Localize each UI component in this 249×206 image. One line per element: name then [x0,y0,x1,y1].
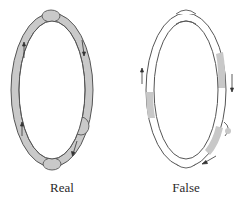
label-false: False [124,180,248,196]
panel-false: False [124,0,248,206]
false-ring-diagram [124,0,248,206]
panel-real: Real [0,0,124,206]
false-ring-inner-icon [154,21,218,159]
ring-comparison-figure: Real False [0,0,249,206]
false-bulge-shade-icon [225,128,231,134]
real-ring-diagram [0,0,124,206]
real-bulge-top-icon [42,10,60,22]
label-real: Real [0,180,124,196]
real-bulge-bottom-icon [43,158,61,170]
